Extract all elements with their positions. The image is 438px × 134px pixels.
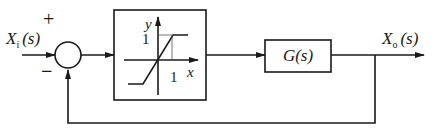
output-signal-label: Xo(s) (381, 29, 419, 50)
block-diagram: Xi(s) + − y 1 1 x G(s) Xo(s) (0, 0, 438, 134)
plant-label: G(s) (283, 46, 314, 65)
summing-junction (55, 42, 81, 68)
x-axis-label: x (186, 64, 194, 80)
plus-sign: + (43, 8, 54, 30)
saturation-block: y 1 1 x (114, 10, 206, 100)
y-tick-label: 1 (142, 31, 150, 47)
y-axis-label: y (143, 16, 152, 32)
input-signal-label: Xi(s) (5, 29, 40, 50)
minus-sign: − (41, 60, 52, 82)
x-tick-label: 1 (170, 69, 178, 85)
